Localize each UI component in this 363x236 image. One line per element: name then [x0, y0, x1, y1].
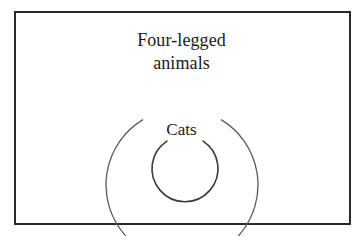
venn-diagram-figure: Four-legged animals Cats — [0, 0, 363, 236]
outer-set-label: Four-legged animals — [0, 31, 363, 72]
outer-set-label-line2: animals — [0, 54, 363, 72]
inner-set-label: Cats — [0, 121, 363, 138]
outer-set-label-line1: Four-legged — [0, 31, 363, 49]
